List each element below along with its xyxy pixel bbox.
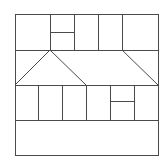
grid-diagram [0,0,165,164]
